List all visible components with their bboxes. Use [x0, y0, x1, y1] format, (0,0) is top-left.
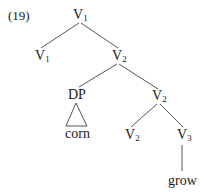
node-label: V: [73, 7, 83, 22]
node-v2-mid: V2: [112, 49, 127, 63]
edge-v1-v2: [81, 23, 118, 48]
node-subscript: 2: [122, 54, 127, 64]
node-subscript: 1: [83, 13, 88, 23]
node-corn: corn: [65, 127, 90, 141]
node-subscript: 2: [135, 133, 140, 143]
terminal-label: corn: [65, 126, 90, 141]
edge-v2bar-v2head: [131, 104, 157, 127]
node-dp: DP: [68, 88, 86, 102]
edge-v2-dp: [79, 64, 117, 87]
triangle-dp-corn: [66, 103, 87, 126]
edge-v2-v2bar: [119, 64, 158, 89]
node-label: V: [35, 48, 45, 63]
tree-edges: [0, 0, 204, 192]
example-number: (19): [8, 9, 30, 23]
edge-v1-v1head: [41, 23, 79, 48]
node-label: V: [112, 48, 122, 63]
node-label: V: [152, 88, 162, 103]
node-subscript: 2: [162, 94, 167, 104]
terminal-label: grow: [168, 173, 197, 188]
node-label: V: [177, 127, 187, 142]
node-grow: grow: [168, 174, 197, 188]
node-v1-head: V1: [35, 49, 50, 63]
node-subscript: 1: [45, 54, 50, 64]
node-v1-root: V1: [73, 8, 88, 22]
node-v2-bar: V2: [152, 89, 167, 103]
node-v2-head: V2: [125, 128, 140, 142]
node-subscript: 3: [187, 133, 192, 143]
node-v3: V3: [177, 128, 192, 142]
node-label: V: [125, 127, 135, 142]
edge-v2bar-v3: [160, 104, 183, 127]
node-label: DP: [68, 87, 86, 102]
